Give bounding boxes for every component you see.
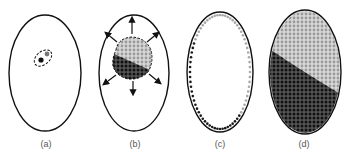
light-cell — [248, 85, 251, 88]
dark-cell — [189, 71, 192, 74]
dark-cell — [189, 76, 192, 79]
light-cell — [221, 14, 224, 17]
dark-cell — [221, 127, 224, 130]
light-cell — [248, 61, 251, 64]
light-cell — [224, 15, 227, 18]
light-cell — [201, 24, 204, 27]
light-cell — [211, 16, 214, 19]
light-cell — [246, 95, 249, 98]
dark-cell — [208, 124, 211, 127]
dark-cell — [224, 127, 227, 130]
dark-cell — [189, 66, 192, 69]
dark-cell — [216, 127, 219, 130]
dark-cell — [189, 61, 192, 64]
panel-label-d: (d) — [299, 139, 310, 149]
figure: (a) (b) (c) (d) — [0, 0, 346, 159]
light-cell — [196, 34, 199, 37]
arrow-up-right-icon — [147, 33, 158, 42]
light-cell — [243, 38, 246, 41]
dark-cell — [229, 124, 232, 127]
light-cell — [242, 34, 245, 37]
light-cell — [249, 71, 252, 74]
light-cell — [246, 47, 249, 50]
panel-label-b: (b) — [130, 139, 141, 149]
light-cell — [238, 27, 241, 30]
light-cell — [219, 14, 222, 17]
light-dot — [45, 52, 50, 57]
light-cell — [236, 24, 239, 27]
light-cell — [249, 66, 252, 69]
dark-cell — [194, 103, 197, 106]
dark-cell — [204, 120, 207, 123]
panel-b: (b) — [99, 15, 169, 149]
dark-cell — [193, 99, 196, 102]
panel-c: (c) — [187, 12, 253, 149]
arrow-down-right-icon — [149, 74, 160, 83]
boundary-cells — [189, 14, 252, 131]
cell-outline — [187, 12, 253, 132]
arrow-down-left-icon — [104, 75, 116, 84]
panel-label-a: (a) — [41, 139, 52, 149]
light-cell — [242, 107, 245, 110]
panel-d: (d) — [268, 9, 344, 149]
light-cell — [247, 90, 250, 93]
dark-cell — [193, 42, 196, 45]
light-cell — [231, 19, 234, 22]
light-cell — [199, 27, 202, 30]
dark-cell — [197, 111, 200, 114]
light-cell — [240, 111, 243, 114]
dark-cell — [192, 47, 195, 50]
panel-label-c: (c) — [215, 139, 226, 149]
dark-cell — [191, 51, 194, 54]
light-cell — [245, 99, 248, 102]
light-cell — [248, 56, 251, 59]
light-cell — [213, 15, 216, 18]
dark-cell — [219, 128, 222, 131]
dark-cell — [190, 85, 193, 88]
dark-cell — [196, 107, 199, 110]
light-cell — [247, 51, 250, 54]
light-cell — [204, 21, 207, 24]
arrow-up-left-icon — [106, 33, 117, 42]
panel-a: (a) — [9, 15, 81, 149]
light-cell — [194, 38, 197, 41]
dark-cell — [213, 127, 216, 130]
light-cell — [248, 81, 251, 84]
dark-dot — [38, 57, 43, 62]
dark-cell — [201, 117, 204, 120]
dark-cell — [192, 95, 195, 98]
light-cell — [234, 21, 237, 24]
light-cell — [229, 17, 232, 20]
dark-cell — [191, 90, 194, 93]
light-cell — [197, 30, 200, 33]
cell-outline — [9, 15, 81, 131]
light-cell — [208, 17, 211, 20]
light-cell — [245, 42, 248, 45]
light-cell — [226, 16, 229, 19]
dark-cell — [206, 122, 209, 125]
dark-cell — [189, 81, 192, 84]
light-cell — [216, 14, 219, 17]
light-cell — [240, 30, 243, 33]
dark-cell — [199, 114, 202, 117]
light-cell — [243, 103, 246, 106]
dark-cell — [238, 114, 241, 117]
dark-cell — [190, 56, 193, 59]
dark-cell — [226, 126, 229, 129]
dark-cell — [236, 117, 239, 120]
dark-cell — [234, 120, 237, 123]
dark-cell — [231, 122, 234, 125]
dark-cell — [211, 126, 214, 129]
light-cell — [249, 76, 252, 79]
light-cell — [206, 19, 209, 22]
dashed-region — [31, 47, 55, 70]
